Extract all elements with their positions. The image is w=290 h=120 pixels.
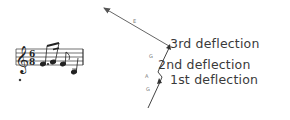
path-note-a: A [145, 73, 148, 79]
label-3rd-deflection: 3rd deflection [170, 37, 260, 51]
path-note-g-lower: G [146, 86, 150, 92]
label-1st-deflection: 1st deflection [170, 73, 258, 87]
treble-clef-icon: 𝄞 [15, 45, 29, 74]
deflection-diagram: 𝄞 6 8 E G A G 3rd deflection 2nd deflect… [0, 0, 290, 120]
label-2nd-deflection: 2nd deflection [158, 58, 251, 72]
path-note-g-upper: G [149, 53, 153, 59]
path-note-e: E [133, 18, 136, 24]
time-sig-bottom: 8 [29, 57, 35, 67]
